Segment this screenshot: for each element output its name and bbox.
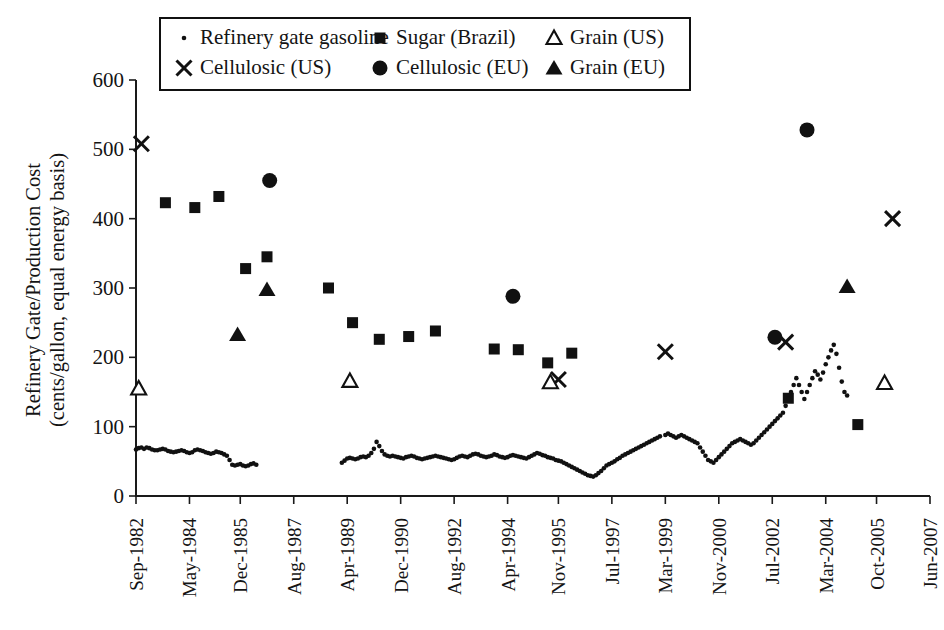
x-tick-label-May-1984: May-1984 xyxy=(179,518,200,598)
x-tick-label-Jun-2007: Jun-2007 xyxy=(920,518,941,589)
data-point-refinery-gate-gasoline xyxy=(839,379,844,384)
data-point-sugar-brazil- xyxy=(213,191,224,202)
x-tick-label-Aug-1992: Aug-1992 xyxy=(444,518,465,595)
data-point-sugar-brazil- xyxy=(430,325,441,336)
legend-label-refinery-gate-gasoline: Refinery gate gasoline xyxy=(200,25,389,49)
data-point-refinery-gate-gasoline xyxy=(225,453,230,458)
x-tick-label-Mar-1999: Mar-1999 xyxy=(655,518,676,594)
data-point-sugar-brazil- xyxy=(489,344,500,355)
data-point-refinery-gate-gasoline xyxy=(799,390,804,395)
legend-label-cellulosic-us-: Cellulosic (US) xyxy=(200,55,331,79)
data-point-cellulosic-eu- xyxy=(800,122,815,137)
data-point-sugar-brazil- xyxy=(374,334,385,345)
data-point-refinery-gate-gasoline xyxy=(254,463,259,468)
data-point-refinery-gate-gasoline xyxy=(377,444,382,449)
data-point-grain-us- xyxy=(342,373,357,387)
data-point-refinery-gate-gasoline xyxy=(695,441,700,446)
legend-marker-filled-circle xyxy=(373,61,388,76)
y-tick-label-600: 600 xyxy=(93,68,125,92)
data-point-refinery-gate-gasoline xyxy=(807,383,812,388)
data-point-grain-us- xyxy=(877,375,892,389)
data-point-grain-eu- xyxy=(229,326,246,341)
chart-figure: 0100200300400500600Sep-1982May-1984Dec-1… xyxy=(0,0,944,630)
y-tick-label-200: 200 xyxy=(93,345,125,369)
data-point-refinery-gate-gasoline xyxy=(374,440,379,445)
x-tick-label-Sep-1982: Sep-1982 xyxy=(126,518,147,591)
x-tick-label-Mar-2004: Mar-2004 xyxy=(816,518,837,594)
data-point-refinery-gate-gasoline xyxy=(802,397,807,402)
data-point-refinery-gate-gasoline xyxy=(789,390,794,395)
x-tick-label-Dec-1990: Dec-1990 xyxy=(391,518,412,593)
data-point-sugar-brazil- xyxy=(189,202,200,213)
x-tick-label-Aug-1987: Aug-1987 xyxy=(284,518,305,595)
data-point-refinery-gate-gasoline xyxy=(658,434,663,439)
data-point-sugar-brazil- xyxy=(323,283,334,294)
data-point-cellulosic-eu- xyxy=(505,289,520,304)
data-point-refinery-gate-gasoline xyxy=(791,383,796,388)
axis-lines xyxy=(136,80,930,496)
data-point-refinery-gate-gasoline xyxy=(831,343,836,348)
data-point-refinery-gate-gasoline xyxy=(698,445,703,450)
data-point-sugar-brazil- xyxy=(240,263,251,274)
data-point-sugar-brazil- xyxy=(566,348,577,359)
data-point-grain-eu- xyxy=(839,279,856,294)
data-point-cellulosic-eu- xyxy=(262,173,277,188)
legend-label-cellulosic-eu-: Cellulosic (EU) xyxy=(396,55,528,79)
data-point-refinery-gate-gasoline xyxy=(781,411,786,416)
data-point-grain-eu- xyxy=(258,281,275,296)
y-axis-title-line1: Refinery Gate/Production Cost xyxy=(22,163,45,417)
legend-marker-small-dot xyxy=(182,36,187,41)
y-tick-label-500: 500 xyxy=(93,137,125,161)
data-point-sugar-brazil- xyxy=(513,344,524,355)
x-tick-label-Apr-1989: Apr-1989 xyxy=(337,518,358,592)
data-point-refinery-gate-gasoline xyxy=(797,383,802,388)
data-point-refinery-gate-gasoline xyxy=(818,377,823,382)
legend-label-grain-eu-: Grain (EU) xyxy=(570,55,665,79)
legend-marker-filled-square xyxy=(375,33,386,44)
data-point-refinery-gate-gasoline xyxy=(815,372,820,377)
data-point-refinery-gate-gasoline xyxy=(372,447,377,452)
data-point-refinery-gate-gasoline xyxy=(783,404,788,409)
data-point-refinery-gate-gasoline xyxy=(703,453,708,458)
y-axis-title-line2: (cents/gallon, equal energy basis) xyxy=(46,153,69,427)
legend-label-sugar-brazil-: Sugar (Brazil) xyxy=(396,25,516,49)
data-point-refinery-gate-gasoline xyxy=(794,376,799,381)
x-tick-label-Jul-2002: Jul-2002 xyxy=(762,518,783,585)
x-tick-label-Dec-1985: Dec-1985 xyxy=(230,518,251,593)
data-point-sugar-brazil- xyxy=(160,197,171,208)
data-point-sugar-brazil- xyxy=(347,317,358,328)
data-point-sugar-brazil- xyxy=(542,357,553,368)
x-tick-label-Apr-1994: Apr-1994 xyxy=(498,518,519,592)
data-point-refinery-gate-gasoline xyxy=(700,449,705,454)
y-tick-label-300: 300 xyxy=(93,276,125,300)
data-point-refinery-gate-gasoline xyxy=(823,362,828,367)
x-tick-label-Oct-2005: Oct-2005 xyxy=(867,518,888,590)
x-tick-label-Nov-1995: Nov-1995 xyxy=(548,518,569,595)
data-point-grain-us- xyxy=(131,381,146,395)
data-point-sugar-brazil- xyxy=(852,419,863,430)
y-tick-label-0: 0 xyxy=(114,484,125,508)
data-point-cellulosic-eu- xyxy=(767,330,782,345)
data-point-refinery-gate-gasoline xyxy=(786,397,791,402)
data-point-refinery-gate-gasoline xyxy=(837,365,842,370)
refinery-gate-vs-biofuel-production-cost-chart: 0100200300400500600Sep-1982May-1984Dec-1… xyxy=(0,0,944,630)
data-point-refinery-gate-gasoline xyxy=(805,390,810,395)
x-tick-label-Nov-2000: Nov-2000 xyxy=(709,518,730,595)
legend-label-grain-us-: Grain (US) xyxy=(570,25,664,49)
data-point-refinery-gate-gasoline xyxy=(834,352,839,357)
data-point-refinery-gate-gasoline xyxy=(826,355,831,360)
data-point-refinery-gate-gasoline xyxy=(821,370,826,375)
y-tick-label-400: 400 xyxy=(93,207,125,231)
data-point-refinery-gate-gasoline xyxy=(810,376,815,381)
data-point-refinery-gate-gasoline xyxy=(227,458,232,463)
data-point-sugar-brazil- xyxy=(261,251,272,262)
x-tick-label-Jul-1997: Jul-1997 xyxy=(602,518,623,585)
data-point-refinery-gate-gasoline xyxy=(845,393,850,398)
data-point-refinery-gate-gasoline xyxy=(369,451,374,456)
data-point-refinery-gate-gasoline xyxy=(829,348,834,353)
y-tick-label-100: 100 xyxy=(93,415,125,439)
data-point-sugar-brazil- xyxy=(403,331,414,342)
